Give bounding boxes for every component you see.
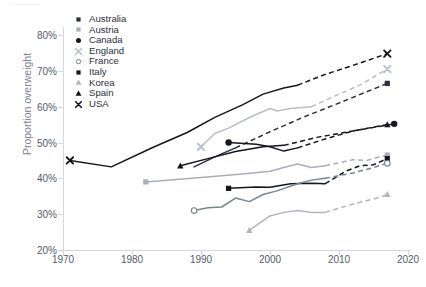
series-line-dashed xyxy=(298,124,395,148)
legend-marker-x-icon xyxy=(72,100,84,109)
series-line-solid xyxy=(146,164,325,182)
legend-marker-circle-open-icon xyxy=(72,57,84,66)
series-line-dashed xyxy=(325,163,387,178)
plot-area xyxy=(0,0,426,287)
series-marker xyxy=(391,121,397,127)
series-line-dashed xyxy=(325,194,387,212)
y-tick-mark xyxy=(58,107,63,108)
legend-marker-triangle-icon xyxy=(72,89,84,98)
y-tick-mark xyxy=(58,35,63,36)
chart-legend: AustraliaAustriaCanadaEnglandFranceItaly… xyxy=(72,14,126,109)
legend-marker-square-icon xyxy=(72,68,84,77)
legend-marker-x-icon xyxy=(72,47,84,56)
legend-label: Italy xyxy=(89,67,107,78)
series-marker xyxy=(226,186,231,191)
series-line-solid xyxy=(229,183,326,188)
series-line-solid xyxy=(201,107,311,147)
series-line-solid xyxy=(180,145,283,165)
legend-item-italy[interactable]: Italy xyxy=(72,67,126,78)
y-tick-mark xyxy=(58,214,63,215)
series-line-dashed xyxy=(298,54,388,86)
legend-label: USA xyxy=(89,99,109,110)
y-tick-mark xyxy=(58,143,63,144)
legend-item-usa[interactable]: USA xyxy=(72,99,126,110)
series-line-dashed xyxy=(325,159,387,184)
chart-root: ............ Proportion overweight 20%30… xyxy=(0,0,426,287)
x-tick-mark xyxy=(132,250,133,255)
series-marker xyxy=(198,144,204,150)
series-england xyxy=(201,69,387,147)
legend-marker-triangle-icon xyxy=(72,78,84,87)
x-tick-mark xyxy=(63,250,64,255)
series-marker xyxy=(385,160,391,166)
series-korea xyxy=(249,194,387,230)
series-line-dashed xyxy=(325,155,387,166)
legend-marker-square-icon xyxy=(72,15,84,24)
series-marker xyxy=(225,139,231,145)
series-line-solid xyxy=(249,211,325,231)
series-marker xyxy=(191,208,197,214)
y-tick-mark xyxy=(58,71,63,72)
legend-item-australia[interactable]: Australia xyxy=(72,14,126,25)
series-marker xyxy=(143,179,148,184)
x-tick-mark xyxy=(270,250,271,255)
legend-label: Australia xyxy=(89,14,126,25)
legend-marker-square-icon xyxy=(72,25,84,34)
x-tick-mark xyxy=(408,250,409,255)
series-marker xyxy=(246,227,252,233)
x-tick-mark xyxy=(201,250,202,255)
series-marker xyxy=(384,191,390,197)
series-marker xyxy=(384,66,390,72)
x-tick-mark xyxy=(339,250,340,255)
series-marker xyxy=(385,81,390,86)
y-tick-mark xyxy=(58,178,63,179)
legend-marker-circle-icon xyxy=(72,36,84,45)
